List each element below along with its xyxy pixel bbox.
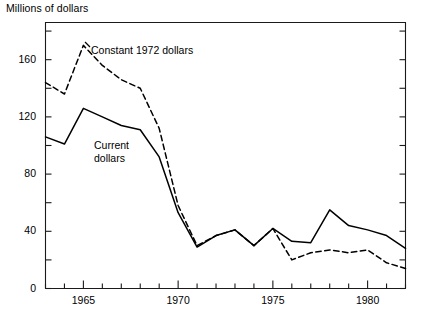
y-tick-label: 0 [6,282,36,294]
y-tick-label: 80 [6,167,36,179]
series-label-constant: Constant 1972 dollars [91,44,193,57]
y-tick-label: 120 [6,110,36,122]
y-tick-label: 40 [6,224,36,236]
x-tick-label: 1980 [348,294,388,306]
x-tick-label: 1970 [158,294,198,306]
series-label-current-line1: Current [94,139,129,152]
x-tick-label: 1965 [63,294,103,306]
series-label-current-line2: dollars [94,152,129,165]
label-leader-lines [85,42,90,47]
x-tick-label: 1975 [253,294,293,306]
chart-container: Millions of dollars Constant 1972 dollar… [0,0,426,313]
plot-area [0,0,426,313]
leader-constant [85,42,90,47]
series-label-current: Current dollars [94,139,129,164]
series-line-solid [46,108,406,248]
y-tick-label: 160 [6,53,36,65]
